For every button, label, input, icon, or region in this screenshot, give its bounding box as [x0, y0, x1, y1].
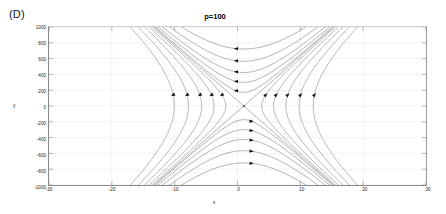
flow-arrow [312, 93, 316, 97]
saddle-point [243, 105, 245, 107]
streamline [153, 130, 335, 185]
x-tick-label: 30 [425, 187, 430, 192]
y-tick-label: 600 [38, 57, 46, 62]
y-tick-label: -800 [37, 169, 46, 174]
streamline [157, 140, 330, 185]
x-tick-label: 0 [237, 187, 240, 192]
y-tick-label: 400 [38, 73, 46, 78]
streamline [153, 27, 335, 82]
flow-arrow [250, 150, 254, 153]
y-tick-label: -1000 [34, 185, 46, 190]
flow-arrow [250, 129, 254, 132]
y-tick-label: 0 [43, 105, 46, 110]
y-tick-label: -400 [37, 137, 46, 142]
flow-arrow [285, 93, 289, 97]
flow-arrow [198, 93, 202, 97]
streamline [175, 163, 313, 185]
flow-arrow [250, 138, 254, 141]
flow-arrow [234, 89, 238, 92]
x-axis-label: x [0, 199, 437, 205]
plot-title: p=100 [0, 12, 438, 21]
streamline [175, 27, 313, 49]
flow-arrow [274, 93, 278, 97]
x-tick-label: -20 [109, 187, 116, 192]
y-tick-label: -600 [37, 153, 46, 158]
figure-panel-d: (D) p=100 y x -1000-800-600-400-20002004… [0, 0, 446, 214]
flow-arrow [234, 59, 238, 62]
x-tick-label: -30 [46, 187, 53, 192]
flow-arrow [234, 80, 238, 83]
y-axis-label: y [13, 102, 16, 108]
flow-arrow [234, 47, 238, 50]
flow-arrow [250, 120, 254, 123]
streamline [164, 151, 324, 185]
x-tick-label: -10 [172, 187, 179, 192]
y-tick-label: 200 [38, 89, 46, 94]
y-tick-label: 1000 [36, 25, 46, 30]
flow-arrow [185, 93, 189, 97]
x-tick-label: 20 [362, 187, 367, 192]
y-tick-label: 800 [38, 41, 46, 46]
flow-arrow [263, 93, 267, 97]
flow-arrow [234, 70, 238, 73]
streamline [157, 27, 330, 72]
x-tick-label: 10 [299, 187, 304, 192]
flow-arrow [209, 93, 213, 97]
streamline [164, 27, 324, 61]
flow-arrow [250, 162, 254, 165]
streamline-plot [49, 27, 426, 185]
plot-area: -1000-800-600-400-20002004006008001000-3… [48, 26, 427, 186]
y-tick-label: -200 [37, 121, 46, 126]
